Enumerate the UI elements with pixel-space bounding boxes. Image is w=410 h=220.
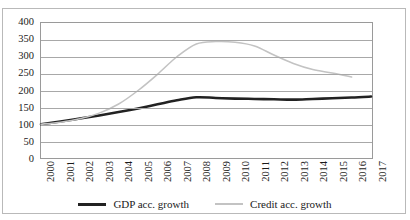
x-tick-label: 2005 [143, 161, 154, 182]
y-tick-label: 300 [18, 51, 34, 61]
legend-entry-gdp: GDP acc. growth [78, 198, 189, 210]
chart-legend: GDP acc. growth Credit acc. growth [3, 195, 407, 213]
x-tick-label: 2009 [221, 161, 232, 182]
y-tick-label: 100 [18, 120, 34, 130]
legend-label-gdp: GDP acc. growth [113, 198, 189, 210]
legend-entry-credit: Credit acc. growth [215, 198, 332, 210]
gridline [41, 142, 372, 143]
x-tick-label: 2007 [182, 161, 193, 182]
plot-area [40, 22, 373, 159]
legend-label-credit: Credit acc. growth [250, 198, 332, 210]
x-tick-label: 2014 [318, 161, 329, 182]
x-tick-label: 2016 [357, 161, 368, 182]
x-tick-label: 2001 [65, 161, 76, 182]
x-tick-label: 2013 [299, 161, 310, 182]
chart-figure: 400350300250200150100500 200020012002200… [2, 8, 406, 214]
y-tick-label: 350 [18, 34, 34, 44]
y-tick-label: 150 [18, 103, 34, 113]
line-swatch-icon-gdp [78, 203, 106, 206]
x-tick-label: 2015 [338, 161, 349, 182]
x-tick-label: 2008 [201, 161, 212, 182]
y-tick-label: 0 [29, 154, 34, 164]
y-tick-label: 200 [18, 86, 34, 96]
x-tick-label: 2003 [104, 161, 115, 182]
y-axis: 400350300250200150100500 [3, 22, 37, 159]
x-tick-label: 2017 [377, 161, 388, 182]
x-axis: 2000200120022003200420052006200720082009… [40, 161, 373, 197]
line-swatch-icon-credit [215, 203, 243, 205]
y-tick-label: 50 [24, 137, 35, 147]
series-line-credit [41, 41, 352, 124]
y-tick-label: 250 [18, 68, 34, 78]
x-tick-label: 2011 [260, 161, 271, 182]
gridline [41, 74, 372, 75]
x-tick-label: 2006 [162, 161, 173, 182]
x-tick-label: 2002 [84, 161, 95, 182]
series-line-gdp [41, 97, 371, 125]
gridline [41, 57, 372, 58]
gridline [41, 91, 372, 92]
x-tick-label: 2010 [240, 161, 251, 182]
gridline [41, 40, 372, 41]
y-tick-label: 400 [18, 17, 34, 27]
gridline [41, 125, 372, 126]
x-tick-label: 2004 [123, 161, 134, 182]
x-tick-label: 2012 [279, 161, 290, 182]
x-tick-label: 2000 [45, 161, 56, 182]
gridline [41, 108, 372, 109]
